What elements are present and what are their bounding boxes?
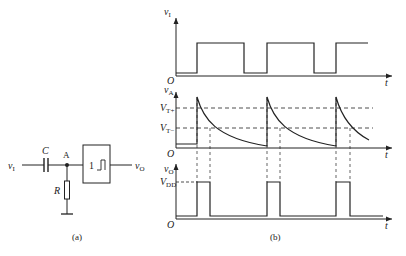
schmitt-trigger-icon	[97, 160, 105, 170]
vo-t-label: t	[385, 220, 388, 231]
schmitt-gate-box	[83, 145, 110, 183]
vi-waveform	[176, 43, 368, 73]
output-label: vO	[135, 160, 145, 173]
vo-waveform	[176, 182, 383, 216]
vt-plus-label: VT+	[160, 102, 174, 115]
resistor	[65, 181, 70, 199]
va-origin: O	[167, 148, 174, 159]
vo-label: vO	[164, 163, 174, 176]
timing-guides	[197, 97, 350, 182]
node-a-dot	[65, 163, 69, 167]
va-plot	[176, 92, 392, 148]
vi-label: vI	[164, 6, 171, 19]
vo-plot	[176, 164, 392, 219]
vt-minus-label: VT−	[160, 122, 174, 135]
va-t-label: t	[385, 149, 388, 160]
vo-origin: O	[167, 219, 174, 230]
resistor-label: R	[53, 185, 60, 196]
circuit-a	[22, 145, 132, 214]
node-a-label: A	[63, 150, 70, 160]
va-waveform	[176, 97, 369, 146]
capacitor-label: C	[42, 145, 49, 156]
vi-plot	[176, 18, 392, 76]
diagram-canvas: vI C A R 1 vO (a) vI O t vA VT+ VT− O t …	[0, 0, 406, 256]
vdd-label: VDD	[160, 176, 176, 189]
gate-label: 1	[89, 160, 94, 171]
caption-a: (a)	[72, 232, 82, 242]
vi-t-label: t	[385, 77, 388, 88]
caption-b: (b)	[270, 232, 281, 242]
input-label: vI	[8, 160, 15, 173]
